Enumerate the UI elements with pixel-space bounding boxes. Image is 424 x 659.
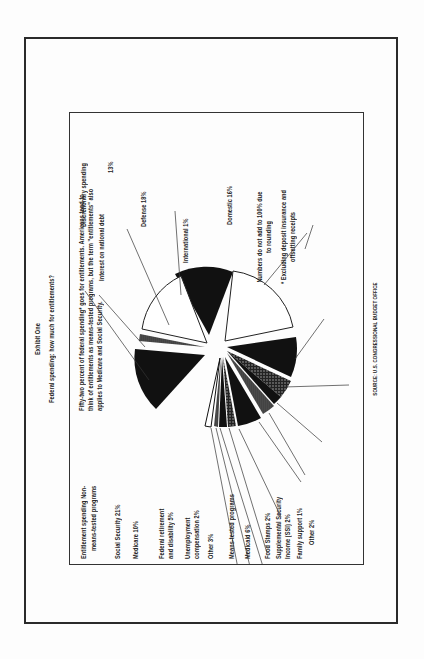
label-domestic: Domestic 16%	[225, 186, 235, 225]
label-interest: Interest on national debt	[97, 214, 107, 281]
note-footnote-2: offsetting receipts	[288, 182, 298, 291]
label-other-means: Other 2%	[307, 520, 317, 545]
label-international: International 1%	[181, 218, 191, 263]
note-rounding-2: to rounding	[264, 182, 274, 291]
intro-line-3: applies to Medicare and Social Security.	[95, 301, 105, 411]
label-non-means-header-2: means-tested programs	[89, 486, 99, 551]
label-family-support: Family support 1%	[295, 508, 305, 559]
exhibit-label: Exhibit One	[33, 300, 43, 378]
exhibit-title: Federal spending: how much for entitleme…	[47, 261, 57, 417]
label-federal-retirement-2: and disability 5%	[166, 512, 176, 559]
label-unemployment-2: compensation 2%	[192, 510, 202, 559]
label-other-non-means: Other 3%	[206, 534, 216, 559]
label-food-stamps: Food Stamps 2%	[263, 513, 273, 559]
label-defense: Defense 18%	[139, 192, 149, 227]
label-social-security: Social Security 21%	[113, 505, 123, 559]
label-means-header: Means-tested programs	[227, 494, 237, 559]
rotated-exhibit: Exhibit One Federal spending: how much f…	[69, 112, 364, 565]
leader-lines	[85, 211, 349, 565]
source-credit: SOURCE: U.S. CONGRESSIONAL BUDGET OFFICE	[371, 261, 381, 417]
pie-chart	[69, 112, 364, 565]
slice-domestic	[134, 349, 205, 409]
label-interest-pct: 13%	[106, 162, 116, 173]
label-medicare: Medicare 10%	[131, 521, 141, 559]
label-non-means-header-1: Entitlement spending Non-	[79, 486, 89, 559]
label-medicaid: Medicaid 6%	[243, 524, 253, 559]
label-ssi-2: Income (SSI) 2%	[283, 514, 293, 559]
